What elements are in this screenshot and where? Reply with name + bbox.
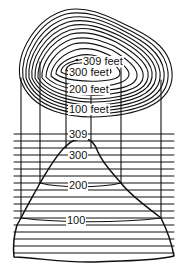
contour-label-100: 100 feet (68, 104, 110, 115)
elevation-lines (14, 134, 174, 253)
contour-label-300: 300 feet (68, 67, 110, 78)
profile-label-309: 309 (68, 129, 88, 140)
profile-label-300: 300 (68, 150, 88, 161)
hill-profile (14, 139, 174, 262)
topographic-diagram: 309 feet 300 feet 200 feet 100 feet 309 … (0, 0, 187, 268)
profile-label-100: 100 (66, 215, 86, 226)
profile-label-200: 200 (68, 180, 88, 191)
summit-dot (76, 59, 79, 62)
contour-label-200: 200 feet (68, 84, 110, 95)
diagram-drawing (0, 0, 187, 268)
